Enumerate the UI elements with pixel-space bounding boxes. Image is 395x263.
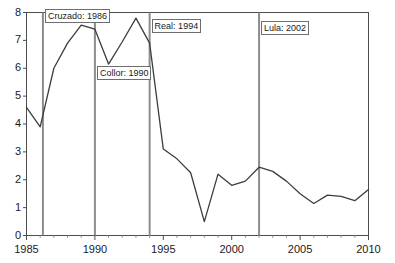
y-tick-label: 3 <box>3 146 21 157</box>
y-axis-ticks <box>23 13 27 236</box>
x-tick-label: 1995 <box>143 244 183 255</box>
data-series <box>27 18 369 221</box>
y-tick-label: 2 <box>3 174 21 185</box>
y-tick-label: 8 <box>3 7 21 18</box>
x-tick-label: 2010 <box>349 244 389 255</box>
annotation-real: Real: 1994 <box>152 19 202 33</box>
y-tick-label: 1 <box>3 202 21 213</box>
x-tick-label: 2000 <box>212 244 252 255</box>
annotation-lula: Lula: 2002 <box>261 21 309 35</box>
annotation-cruzado: Cruzado: 1986 <box>45 9 110 23</box>
x-tick-label: 2005 <box>280 244 320 255</box>
y-tick-label: 6 <box>3 62 21 73</box>
chart-plot-area <box>0 0 395 263</box>
annotation-collor: Collor: 1990 <box>97 66 152 80</box>
y-tick-label: 0 <box>3 230 21 241</box>
line-chart: 012345678 198519901995200020052010 Cruza… <box>0 0 395 263</box>
y-tick-label: 5 <box>3 90 21 101</box>
x-tick-label: 1990 <box>75 244 115 255</box>
x-tick-label: 1985 <box>7 244 47 255</box>
y-tick-label: 7 <box>3 34 21 45</box>
event-marker-lines <box>43 13 259 236</box>
y-tick-label: 4 <box>3 118 21 129</box>
x-axis-ticks <box>27 236 369 241</box>
